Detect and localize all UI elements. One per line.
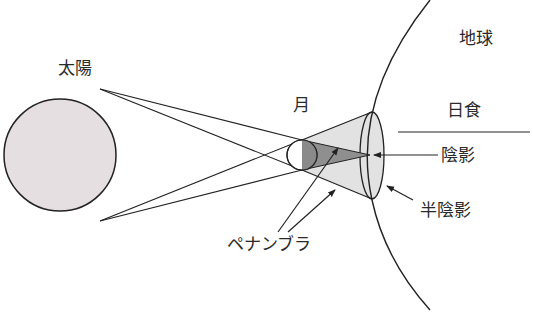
penumbra-arrow <box>387 186 413 200</box>
penumbra-label: 半陰影 <box>420 202 471 219</box>
solar-eclipse-label: 日食 <box>447 102 481 119</box>
tangent-lines <box>100 89 302 221</box>
umbra-label: 陰影 <box>441 147 475 164</box>
penumbra-katakana-label: ペナンブラ <box>227 236 311 253</box>
penumbra-katakana-arrow-2 <box>288 190 335 232</box>
moon <box>287 140 317 170</box>
sun-label: 太陽 <box>58 60 92 77</box>
sun-circle <box>4 99 116 211</box>
earth-label: 地球 <box>459 30 493 47</box>
moon-label: 月 <box>293 97 310 114</box>
